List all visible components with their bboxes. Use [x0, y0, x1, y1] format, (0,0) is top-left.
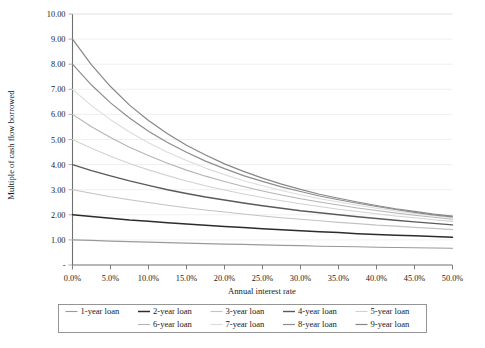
axis-ticks — [69, 14, 453, 270]
x-tick-label: 35.0% — [328, 274, 350, 283]
y-tick-label: 5.00 — [51, 136, 66, 145]
legend-label: 6-year loan — [153, 319, 193, 329]
legend-label: 2-year loan — [153, 306, 193, 316]
x-tick-label: 5.0% — [102, 274, 119, 283]
legend-label: 9-year loan — [371, 319, 411, 329]
legend-label: 5-year loan — [371, 306, 411, 316]
legend-label: 8-year loan — [298, 319, 338, 329]
y-tick-label: 1.00 — [51, 236, 66, 245]
x-tick-label: 15.0% — [176, 274, 198, 283]
y-tick-label: 10.00 — [47, 10, 66, 19]
series-line-8-year-loan — [73, 64, 453, 217]
x-tick-label: 0.0% — [64, 274, 81, 283]
annuity-factor-line-chart: -1.002.003.004.005.006.007.008.009.0010.… — [0, 0, 485, 348]
data-series-lines — [73, 39, 453, 248]
chart-legend: 1-year loan2-year loan3-year loan4-year … — [59, 305, 427, 333]
x-tick-label: 10.0% — [138, 274, 160, 283]
legend-label: 7-year loan — [226, 319, 266, 329]
y-tick-label: 7.00 — [51, 85, 66, 94]
y-tick-label: 2.00 — [51, 211, 66, 220]
x-tick-label: 30.0% — [290, 274, 312, 283]
y-tick-label: - — [63, 261, 66, 270]
series-line-1-year-loan — [73, 240, 453, 248]
y-axis-tick-labels: -1.002.003.004.005.006.007.008.009.0010.… — [47, 10, 66, 270]
y-tick-label: 6.00 — [51, 110, 66, 119]
legend-label: 4-year loan — [298, 306, 338, 316]
x-axis-tick-labels: 0.0%5.0%10.0%15.0%20.0%25.0%30.0%35.0%40… — [64, 274, 463, 283]
legend-label: 1-year loan — [81, 306, 121, 316]
series-line-7-year-loan — [73, 89, 453, 218]
y-tick-label: 4.00 — [51, 161, 66, 170]
y-axis-title: Multiple of cash flow borrowed — [6, 90, 16, 200]
x-tick-label: 20.0% — [214, 274, 236, 283]
x-tick-label: 25.0% — [252, 274, 274, 283]
x-tick-label: 50.0% — [442, 274, 464, 283]
series-line-6-year-loan — [73, 114, 453, 219]
x-tick-label: 45.0% — [404, 274, 426, 283]
y-tick-label: 8.00 — [51, 60, 66, 69]
y-tick-label: 9.00 — [51, 35, 66, 44]
x-tick-label: 40.0% — [366, 274, 388, 283]
y-tick-label: 3.00 — [51, 186, 66, 195]
x-axis-title: Annual interest rate — [228, 286, 296, 296]
legend-label: 3-year loan — [226, 306, 266, 316]
chart-figure: -1.002.003.004.005.006.007.008.009.0010.… — [0, 0, 485, 348]
